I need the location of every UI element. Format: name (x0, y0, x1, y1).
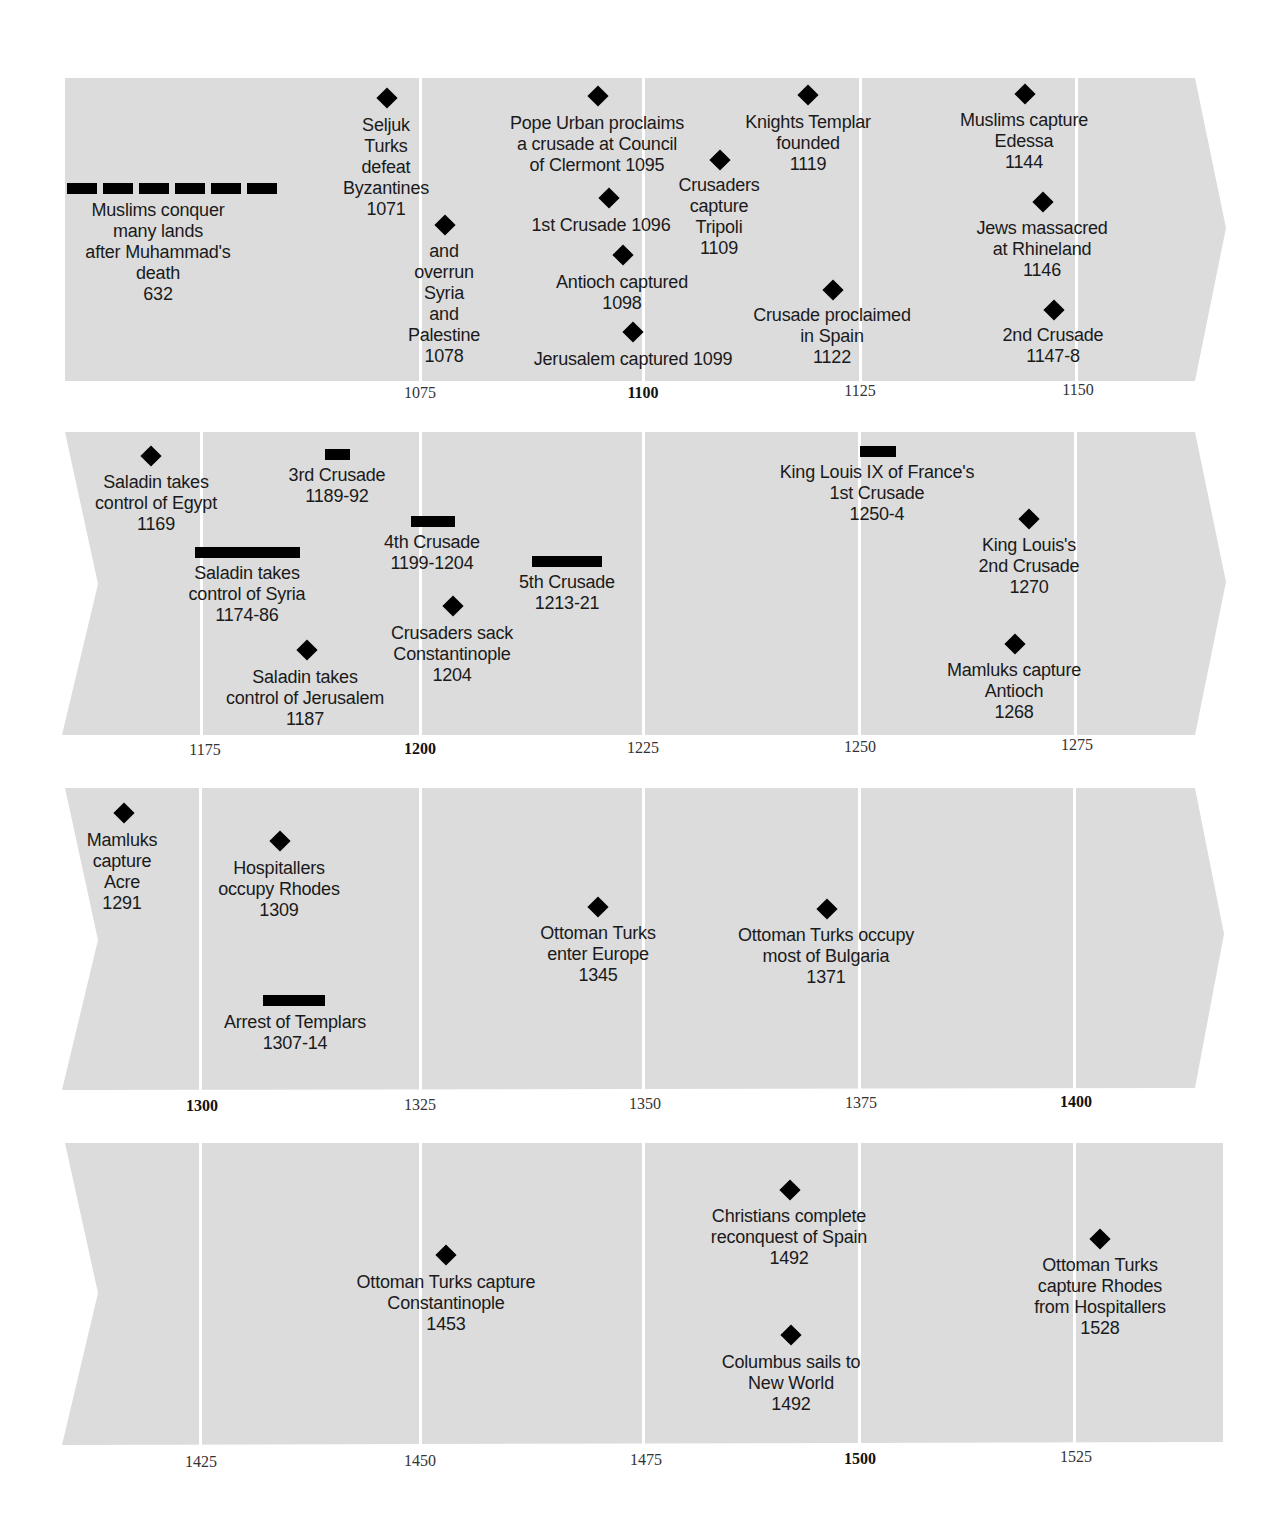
gridline-1225 (642, 432, 645, 735)
year-tick-label: 1075 (404, 384, 436, 402)
year-tick-label: 1525 (1060, 1448, 1092, 1466)
event-label: Seljuk Turks defeat Byzantines 1071 (343, 115, 429, 220)
year-tick-label: 1500 (844, 1450, 876, 1468)
event-label: Columbus sails to New World 1492 (722, 1352, 861, 1415)
event-label: and overrun Syria and Palestine 1078 (408, 241, 480, 367)
year-tick-label: 1375 (845, 1094, 877, 1112)
event-label: Muslims capture Edessa 1144 (960, 110, 1088, 173)
year-tick-label: 1225 (627, 739, 659, 757)
event-label: Jerusalem captured 1099 (534, 349, 733, 370)
event-label: 3rd Crusade 1189-92 (289, 465, 386, 507)
duration-bar (411, 516, 455, 527)
gridline-1475 (642, 1143, 645, 1445)
year-tick-label: 1100 (627, 384, 658, 402)
dashed-bar-segment (103, 183, 133, 194)
duration-bar (325, 449, 350, 460)
event-label: Knights Templar founded 1119 (745, 112, 871, 175)
timeline-row-1: Muslims conquer many lands after Muhamma… (0, 78, 1285, 418)
event-label: Hospitallers occupy Rhodes 1309 (218, 858, 339, 921)
event-label: 5th Crusade 1213-21 (519, 572, 615, 614)
year-tick-label: 1425 (185, 1453, 217, 1471)
gridline-1325 (419, 788, 422, 1090)
dashed-bar-segment (139, 183, 169, 194)
dashed-bar-segment (175, 183, 205, 194)
event-label: Ottoman Turks enter Europe 1345 (540, 923, 655, 986)
gridline-1425 (199, 1143, 202, 1445)
event-label: Jews massacred at Rhineland 1146 (976, 218, 1107, 281)
event-label: Mamluks capture Acre 1291 (87, 830, 158, 914)
year-tick-label: 1125 (844, 382, 875, 400)
dashed-bar-segment (247, 183, 277, 194)
event-label: Muslims conquer many lands after Muhamma… (85, 200, 230, 305)
event-label: Crusade proclaimed in Spain 1122 (753, 305, 910, 368)
event-label: 2nd Crusade 1147-8 (1003, 325, 1104, 367)
duration-bar (532, 556, 602, 567)
event-label: King Louis's 2nd Crusade 1270 (979, 535, 1080, 598)
event-label: 1st Crusade 1096 (532, 215, 671, 236)
year-tick-label: 1300 (186, 1097, 218, 1115)
timeline-row-2: Saladin takes control of Egypt 1169 3rd … (0, 432, 1285, 772)
event-label: Ottoman Turks capture Rhodes from Hospit… (1034, 1255, 1166, 1339)
year-tick-label: 1400 (1060, 1093, 1092, 1111)
dashed-bar-segment (67, 183, 97, 194)
event-label: Crusaders capture Tripoli 1109 (678, 175, 759, 259)
event-label: Saladin takes control of Jerusalem 1187 (226, 667, 384, 730)
duration-bar (860, 446, 896, 457)
event-label: Antioch captured 1098 (556, 272, 688, 314)
timeline-row-3: Mamluks capture Acre 1291 Hospitallers o… (0, 788, 1285, 1128)
year-tick-label: 1450 (404, 1452, 436, 1470)
year-tick-label: 1350 (629, 1095, 661, 1113)
event-label: Christians complete reconquest of Spain … (711, 1206, 867, 1269)
event-label: Mamluks capture Antioch 1268 (947, 660, 1081, 723)
event-label: Arrest of Templars 1307-14 (224, 1012, 366, 1054)
year-tick-label: 1200 (404, 740, 436, 758)
year-tick-label: 1275 (1061, 736, 1093, 754)
event-label: 4th Crusade 1199-1204 (384, 532, 480, 574)
year-tick-label: 1150 (1062, 381, 1093, 399)
event-label: King Louis IX of France's 1st Crusade 12… (780, 462, 975, 525)
gridline-1200 (419, 432, 422, 735)
dashed-bar-segment (211, 183, 241, 194)
event-label: Ottoman Turks occupy most of Bulgaria 13… (738, 925, 914, 988)
event-label: Saladin takes control of Egypt 1169 (95, 472, 217, 535)
year-tick-label: 1475 (630, 1451, 662, 1469)
year-tick-label: 1325 (404, 1096, 436, 1114)
duration-bar (263, 995, 325, 1006)
event-label: Ottoman Turks capture Constantinople 145… (357, 1272, 536, 1335)
event-label: Saladin takes control of Syria 1174-86 (189, 563, 306, 626)
year-tick-label: 1250 (844, 738, 876, 756)
gridline-1300 (199, 788, 202, 1090)
year-tick-label: 1175 (189, 741, 220, 759)
timeline-row-4: Ottoman Turks capture Constantinople 145… (0, 1143, 1285, 1483)
gridline-1400 (1073, 788, 1076, 1090)
event-label: Pope Urban proclaims a crusade at Counci… (510, 113, 684, 176)
event-label: Crusaders sack Constantinople 1204 (391, 623, 513, 686)
duration-bar (195, 547, 300, 558)
